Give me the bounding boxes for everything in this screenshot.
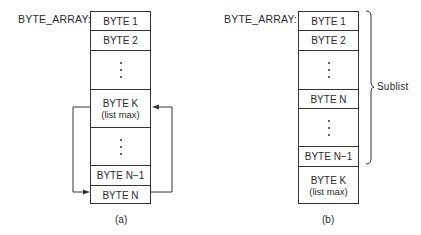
sublist-label: Sublist (377, 81, 408, 92)
caption-b: (b) (322, 214, 334, 225)
right-brace-icon (366, 11, 374, 164)
sublist-brace (0, 0, 421, 235)
